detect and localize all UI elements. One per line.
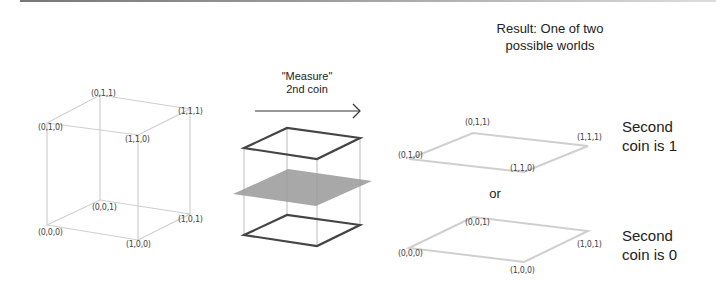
- vertex-label: (1,1,0): [510, 164, 535, 173]
- measurement-plane: [233, 169, 372, 206]
- vertex-label: (1,0,1): [178, 215, 203, 224]
- measure-label-line1: "Measure": [262, 70, 352, 83]
- result-title-line1: Result: One of two: [460, 20, 640, 37]
- vertex-label: (0,1,0): [398, 151, 423, 160]
- world-1-caption-line1: Second: [622, 117, 677, 136]
- measure-label: "Measure" 2nd coin: [262, 70, 352, 96]
- full-cube: [47, 95, 190, 240]
- vertex-label: (1,1,0): [125, 135, 150, 144]
- world-1-square: [409, 133, 588, 172]
- vertex-label: (1,1,1): [178, 107, 203, 116]
- vertex-label: (0,0,1): [465, 218, 490, 227]
- vertex-label: (1,0,1): [577, 240, 602, 249]
- measure-label-line2: 2nd coin: [262, 83, 352, 96]
- vertex-label: (1,1,1): [577, 133, 602, 142]
- vertex-label: (0,1,0): [38, 123, 63, 132]
- or-label: or: [485, 186, 505, 201]
- vertex-label: (0,1,1): [91, 89, 116, 98]
- world-1-caption: Second coin is 1: [622, 117, 677, 155]
- vertex-label: (0,1,1): [465, 118, 490, 127]
- world-0-caption-line1: Second: [622, 226, 677, 245]
- world-0-caption: Second coin is 0: [622, 226, 677, 264]
- vertex-label: (1,0,0): [510, 266, 535, 275]
- result-title-line2: possible worlds: [460, 37, 640, 54]
- world-1-caption-line2: coin is 1: [622, 136, 677, 155]
- arrow-right-icon: [255, 104, 360, 118]
- result-title: Result: One of two possible worlds: [460, 20, 640, 54]
- world-0-caption-line2: coin is 0: [622, 245, 677, 264]
- vertex-label: (0,0,1): [92, 203, 117, 212]
- measure-cube: [233, 128, 372, 246]
- world-0-square: [409, 217, 588, 262]
- vertex-label: (0,0,0): [38, 228, 63, 237]
- vertex-label: (1,0,0): [126, 240, 151, 249]
- vertex-label: (0,0,0): [398, 249, 423, 258]
